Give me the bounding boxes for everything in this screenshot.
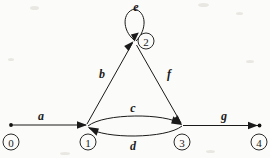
- node-0[interactable]: 0: [3, 134, 19, 150]
- edge-label-f: f: [167, 68, 171, 80]
- node-2-label: 2: [143, 36, 149, 48]
- edge-g-arrowhead: [248, 122, 258, 130]
- start-dot-node-0: [9, 123, 13, 127]
- node-3-label: 3: [179, 137, 185, 149]
- edge-f-path: [137, 45, 182, 123]
- node-0-label: 0: [8, 137, 14, 149]
- node-4[interactable]: 4: [251, 134, 267, 150]
- node-4-label: 4: [256, 137, 262, 149]
- edge-b: [87, 41, 134, 124]
- edge-f: [137, 45, 183, 125]
- edge-b-path: [87, 43, 133, 124]
- end-dot-node-4: [258, 124, 262, 128]
- edge-label-a: a: [38, 110, 44, 122]
- edge-label-d: d: [130, 140, 136, 152]
- edge-label-c: c: [130, 102, 135, 114]
- edge-a: [12, 121, 87, 129]
- node-1-label: 1: [85, 137, 91, 149]
- node-2[interactable]: 2: [138, 33, 154, 49]
- edge-label-e: e: [133, 1, 138, 13]
- edge-d: [88, 126, 182, 136]
- edge-b-arrowhead: [124, 41, 133, 51]
- edge-label-b: b: [99, 68, 105, 80]
- edge-c: [88, 116, 182, 126]
- edge-a-arrowhead: [77, 121, 87, 129]
- edge-c-path: [88, 116, 181, 126]
- graph-canvas: 0 1 2 3 4: [0, 0, 270, 158]
- node-1[interactable]: 1: [80, 134, 96, 150]
- automaton-diagram: 0 1 2 3 4 a b c d e f g: [0, 0, 270, 158]
- node-3[interactable]: 3: [174, 134, 190, 150]
- edge-d-path: [89, 126, 182, 136]
- edge-label-g: g: [221, 110, 227, 122]
